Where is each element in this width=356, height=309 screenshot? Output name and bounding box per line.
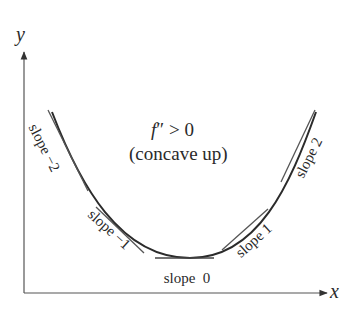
label-slope-0: slope 0 bbox=[164, 270, 211, 286]
y-axis-label: y bbox=[14, 23, 25, 46]
label-slope-neg1: slope −1 bbox=[85, 206, 134, 252]
concavity-description: (concave up) bbox=[129, 143, 228, 165]
label-slope-2: slope 2 bbox=[292, 135, 326, 181]
x-axis-label: x bbox=[329, 280, 339, 302]
label-slope-1: slope 1 bbox=[232, 220, 275, 261]
concavity-condition: f″ > 0 bbox=[151, 119, 194, 140]
concavity-diagram: y x f″ > 0 (concave up) slope −2 slope −… bbox=[0, 0, 356, 309]
